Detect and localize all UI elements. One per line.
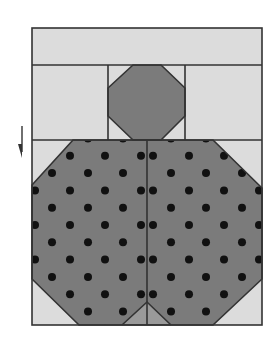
polka-dot — [101, 256, 109, 264]
polka-dot — [137, 325, 145, 333]
polka-dot — [185, 152, 193, 160]
polka-dot — [149, 256, 157, 264]
polka-dot — [48, 238, 56, 246]
polka-dot — [149, 325, 157, 333]
polka-dot — [202, 308, 210, 316]
polka-dot — [84, 169, 92, 177]
right-rectangle — [185, 65, 262, 140]
left-rectangle — [32, 65, 108, 140]
polka-dot — [220, 221, 228, 229]
polka-dot — [119, 238, 127, 246]
polka-dot — [185, 290, 193, 298]
polka-dot — [137, 290, 145, 298]
polka-dot — [48, 273, 56, 281]
polka-dot — [220, 256, 228, 264]
polka-dot — [167, 204, 175, 212]
polka-dot — [137, 152, 145, 160]
polka-dot — [66, 186, 74, 194]
polka-dot — [48, 169, 56, 177]
polka-dot — [238, 204, 246, 212]
top-strip — [32, 28, 262, 65]
polka-dot — [185, 186, 193, 194]
polka-dot — [185, 256, 193, 264]
polka-dot — [220, 290, 228, 298]
polka-dot — [137, 256, 145, 264]
polka-dot — [149, 221, 157, 229]
polka-dot — [84, 238, 92, 246]
polka-dot — [167, 273, 175, 281]
polka-dot — [84, 273, 92, 281]
polka-dot — [185, 221, 193, 229]
polka-dot — [255, 325, 263, 333]
polka-dot — [66, 221, 74, 229]
polka-dot — [137, 221, 145, 229]
polka-dot — [220, 325, 228, 333]
polka-dot — [202, 204, 210, 212]
polka-dot — [149, 152, 157, 160]
polka-dot — [101, 325, 109, 333]
polka-dot — [101, 186, 109, 194]
polka-dot — [220, 186, 228, 194]
polka-dot — [119, 204, 127, 212]
polka-dot — [137, 186, 145, 194]
polka-dot — [185, 325, 193, 333]
quilt-block-diagram — [0, 0, 274, 343]
arrow-down-icon — [18, 126, 22, 158]
polka-dot — [202, 273, 210, 281]
polka-dot — [167, 308, 175, 316]
polka-dot — [66, 290, 74, 298]
polka-dot — [31, 325, 39, 333]
polka-dot — [238, 238, 246, 246]
polka-dot — [66, 325, 74, 333]
polka-dot — [149, 186, 157, 194]
polka-dot — [119, 169, 127, 177]
polka-dot — [202, 238, 210, 246]
polka-dot — [101, 152, 109, 160]
polka-dot — [119, 308, 127, 316]
polka-dot — [66, 256, 74, 264]
polka-dot — [202, 169, 210, 177]
polka-dot — [66, 152, 74, 160]
polka-dot — [238, 273, 246, 281]
polka-dot — [101, 290, 109, 298]
polka-dot — [101, 221, 109, 229]
polka-dot — [48, 204, 56, 212]
polka-dot — [167, 169, 175, 177]
polka-dot — [167, 238, 175, 246]
polka-dot — [84, 308, 92, 316]
polka-dot — [119, 273, 127, 281]
polka-dot — [84, 204, 92, 212]
polka-dot — [149, 290, 157, 298]
